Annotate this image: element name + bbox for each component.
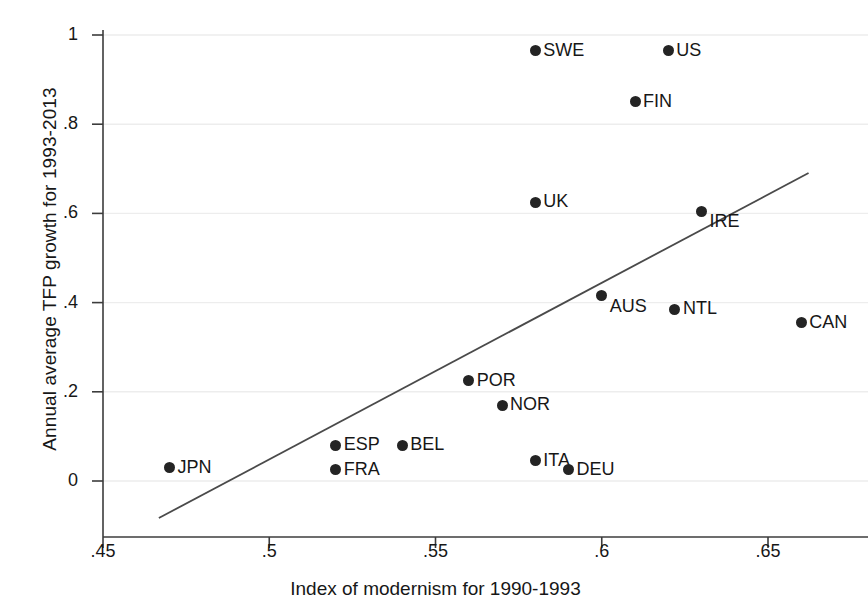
point-marker: [530, 197, 541, 208]
point-marker: [696, 206, 707, 217]
axis-lines: [103, 30, 868, 537]
point-label-us: US: [676, 40, 701, 61]
point-label-can: CAN: [809, 312, 847, 333]
point-label-fra: FRA: [344, 459, 380, 480]
point-label-aus: AUS: [610, 296, 647, 317]
gridlines: [103, 35, 868, 481]
point-label-ntl: NTL: [683, 298, 717, 319]
x-axis-title: Index of modernism for 1990-1993: [103, 578, 768, 600]
point-label-fin: FIN: [643, 91, 672, 112]
x-tick-label-.55: .55: [396, 541, 476, 562]
point-marker: [630, 96, 641, 107]
point-marker: [497, 400, 508, 411]
point-label-bel: BEL: [410, 434, 444, 455]
point-label-deu: DEU: [577, 459, 615, 480]
point-label-esp: ESP: [344, 434, 380, 455]
point-label-swe: SWE: [543, 40, 584, 61]
point-marker: [530, 45, 541, 56]
x-tick-label-.6: .6: [562, 541, 642, 562]
point-marker: [796, 317, 807, 328]
point-label-jpn: JPN: [178, 457, 212, 478]
point-marker: [397, 440, 408, 451]
x-tick-label-.65: .65: [728, 541, 808, 562]
scatter-chart: 0.2.4.6.81 .45.5.55.6.65 JPNESPFRABELPOR…: [0, 0, 868, 615]
x-tick-label-.5: .5: [229, 541, 309, 562]
point-label-uk: UK: [543, 191, 568, 212]
point-label-nor: NOR: [510, 394, 550, 415]
plot-area: [0, 0, 868, 615]
point-marker: [663, 45, 674, 56]
y-axis-title: Annual average TFP growth for 1993-2013: [39, 19, 61, 519]
x-tick-label-.45: .45: [63, 541, 143, 562]
point-label-por: POR: [477, 370, 516, 391]
point-label-ire: IRE: [710, 211, 740, 232]
point-marker: [330, 440, 341, 451]
